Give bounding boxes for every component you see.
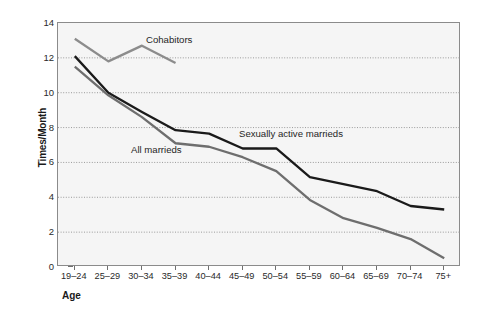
x-tick-mark [342,266,343,270]
x-tick-label: 70–74 [397,271,423,281]
x-tick-label: 35–39 [162,271,188,281]
x-axis-title: Age [62,290,81,301]
y-tick-label: 8 [20,121,54,132]
x-tick-label: 30–34 [128,271,154,281]
y-tick-label: 0 [20,261,54,272]
y-tick-label: 10 [20,86,54,97]
x-tick-label: 40–44 [195,271,221,281]
x-tick-mark [410,266,411,270]
x-tick-mark [309,266,310,270]
x-tick-mark [208,266,209,270]
x-tick-mark [141,266,142,270]
x-tick-mark [275,266,276,270]
series-label-cohabitors: Cohabitors [146,34,192,45]
x-tick-mark [376,266,377,270]
y-tick-label: 14 [20,17,54,28]
x-tick-mark [443,266,444,270]
y-tick-label: 6 [20,156,54,167]
x-tick-label: 25–29 [95,271,121,281]
chart-lines-svg [58,23,461,267]
series-label-all-marrieds: All marrieds [131,144,182,155]
x-tick-label: 45–49 [229,271,255,281]
x-tick-label: 75+ [435,271,451,281]
gridline-group [58,58,461,232]
y-tick-label: 2 [20,226,54,237]
plot-area [57,22,460,266]
x-tick-mark [175,266,176,270]
series-label-sexually-active-marrieds: Sexually active marrieds [239,128,343,139]
x-tick-mark [74,266,75,270]
x-tick-label: 65–69 [363,271,389,281]
x-tick-label: 19–24 [61,271,87,281]
x-tick-mark [107,266,108,270]
y-axis-tick-group: 02468101214 [16,0,54,311]
chart-figure: Times/Month 02468101214 Age 19–2425–2930… [0,0,487,311]
x-tick-label: 60–64 [330,271,356,281]
y-tick-label: 12 [20,51,54,62]
x-tick-mark [242,266,243,270]
y-tick-label: 4 [20,191,54,202]
x-tick-label: 50–54 [263,271,289,281]
x-tick-label: 55–59 [296,271,322,281]
